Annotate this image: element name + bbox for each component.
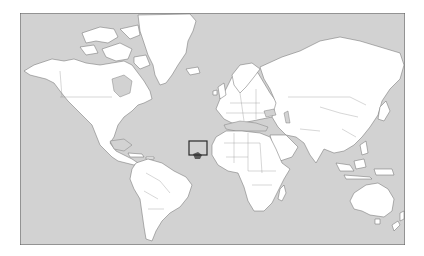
world-map (20, 13, 405, 245)
tasmania (375, 219, 380, 224)
